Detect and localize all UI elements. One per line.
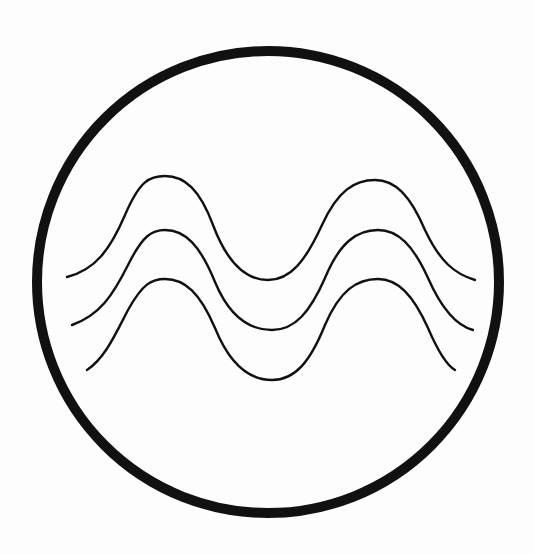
- aquarius-symbol-icon: [0, 0, 534, 554]
- symbol-figure: Aquarius / water waves symbol: [0, 0, 534, 554]
